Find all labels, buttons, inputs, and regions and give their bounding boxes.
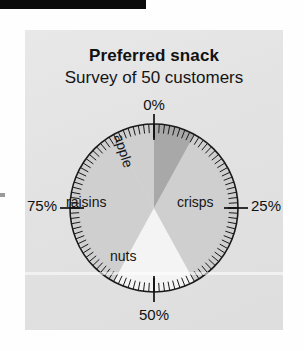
figure-subtitle: Survey of 50 customers: [25, 68, 283, 88]
page-edge-mark: [0, 193, 5, 197]
pie-chart: 0% 25% 50% 75% apple crisps nuts raisins: [25, 96, 283, 321]
scale-label-50: 50%: [25, 306, 283, 323]
slice-label-raisins: raisins: [66, 194, 106, 210]
figure-title: Preferred snack: [25, 46, 283, 66]
slice-label-nuts: nuts: [110, 248, 136, 264]
scale-label-25: 25%: [251, 197, 281, 214]
slice-label-crisps: crisps: [177, 194, 214, 210]
pie-chart-svg: [25, 96, 283, 321]
scale-label-75: 75%: [27, 197, 57, 214]
scan-artifact-line: [25, 272, 283, 275]
scale-label-0: 0%: [25, 96, 283, 113]
page-root: Preferred snack Survey of 50 customers: [0, 0, 304, 351]
page-edge-black-bar: [0, 0, 146, 9]
figure-panel: Preferred snack Survey of 50 customers: [25, 30, 283, 330]
